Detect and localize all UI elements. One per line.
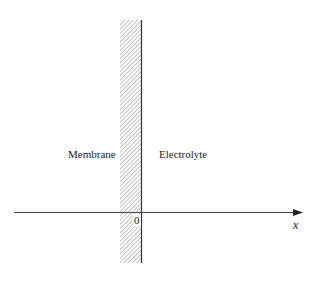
x-axis-label: x bbox=[293, 218, 298, 233]
axis-arrow-icon bbox=[293, 209, 303, 216]
diagram-canvas bbox=[0, 0, 320, 281]
membrane-band bbox=[120, 20, 142, 263]
origin-label: 0 bbox=[133, 214, 141, 226]
x-axis bbox=[14, 209, 303, 216]
membrane-label: Membrane bbox=[68, 148, 116, 160]
electrolyte-label: Electrolyte bbox=[159, 148, 207, 160]
membrane-electrolyte-diagram: Membrane Electrolyte 0 x bbox=[0, 0, 320, 281]
